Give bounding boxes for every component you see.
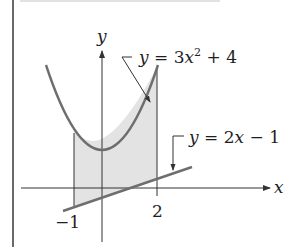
line-callout-leader	[173, 136, 184, 170]
parabola-eq-exp: 2	[194, 46, 201, 59]
line-equation-label: y = 2x − 1	[188, 127, 280, 147]
line-eq-x: x	[234, 127, 244, 147]
tick-label-neg1: −1	[55, 212, 80, 232]
tick-label-2: 2	[152, 201, 163, 221]
shaded-region	[74, 67, 157, 207]
parabola-equation-label: y = 3x2 + 4	[138, 46, 237, 67]
line-eq-y: y	[188, 127, 199, 147]
parabola-eq-eq: = 3	[149, 47, 185, 67]
x-axis-label: x	[274, 177, 284, 197]
y-axis-label: y	[96, 26, 107, 46]
parabola-eq-x: x	[184, 47, 194, 67]
parabola-eq-y: y	[138, 47, 149, 67]
line-eq-rest: − 1	[244, 127, 280, 147]
line-eq-eq: = 2	[199, 127, 235, 147]
parabola-eq-rest: + 4	[201, 47, 237, 67]
area-between-curves-figure: y x −1 2 y = 3x2 + 4 y = 2x − 1	[0, 0, 305, 251]
